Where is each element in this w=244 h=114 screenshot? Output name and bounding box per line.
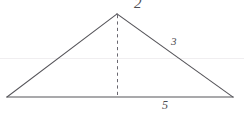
label-altitude-length: 2 [134, 0, 142, 11]
triangle-figure: 2 3 5 [0, 0, 244, 114]
triangle-diagram-svg [0, 0, 244, 114]
triangle-right-side [117, 14, 233, 97]
label-right-side-length: 3 [171, 36, 177, 47]
triangle-left-side [7, 14, 117, 97]
label-base-length: 5 [162, 99, 168, 111]
